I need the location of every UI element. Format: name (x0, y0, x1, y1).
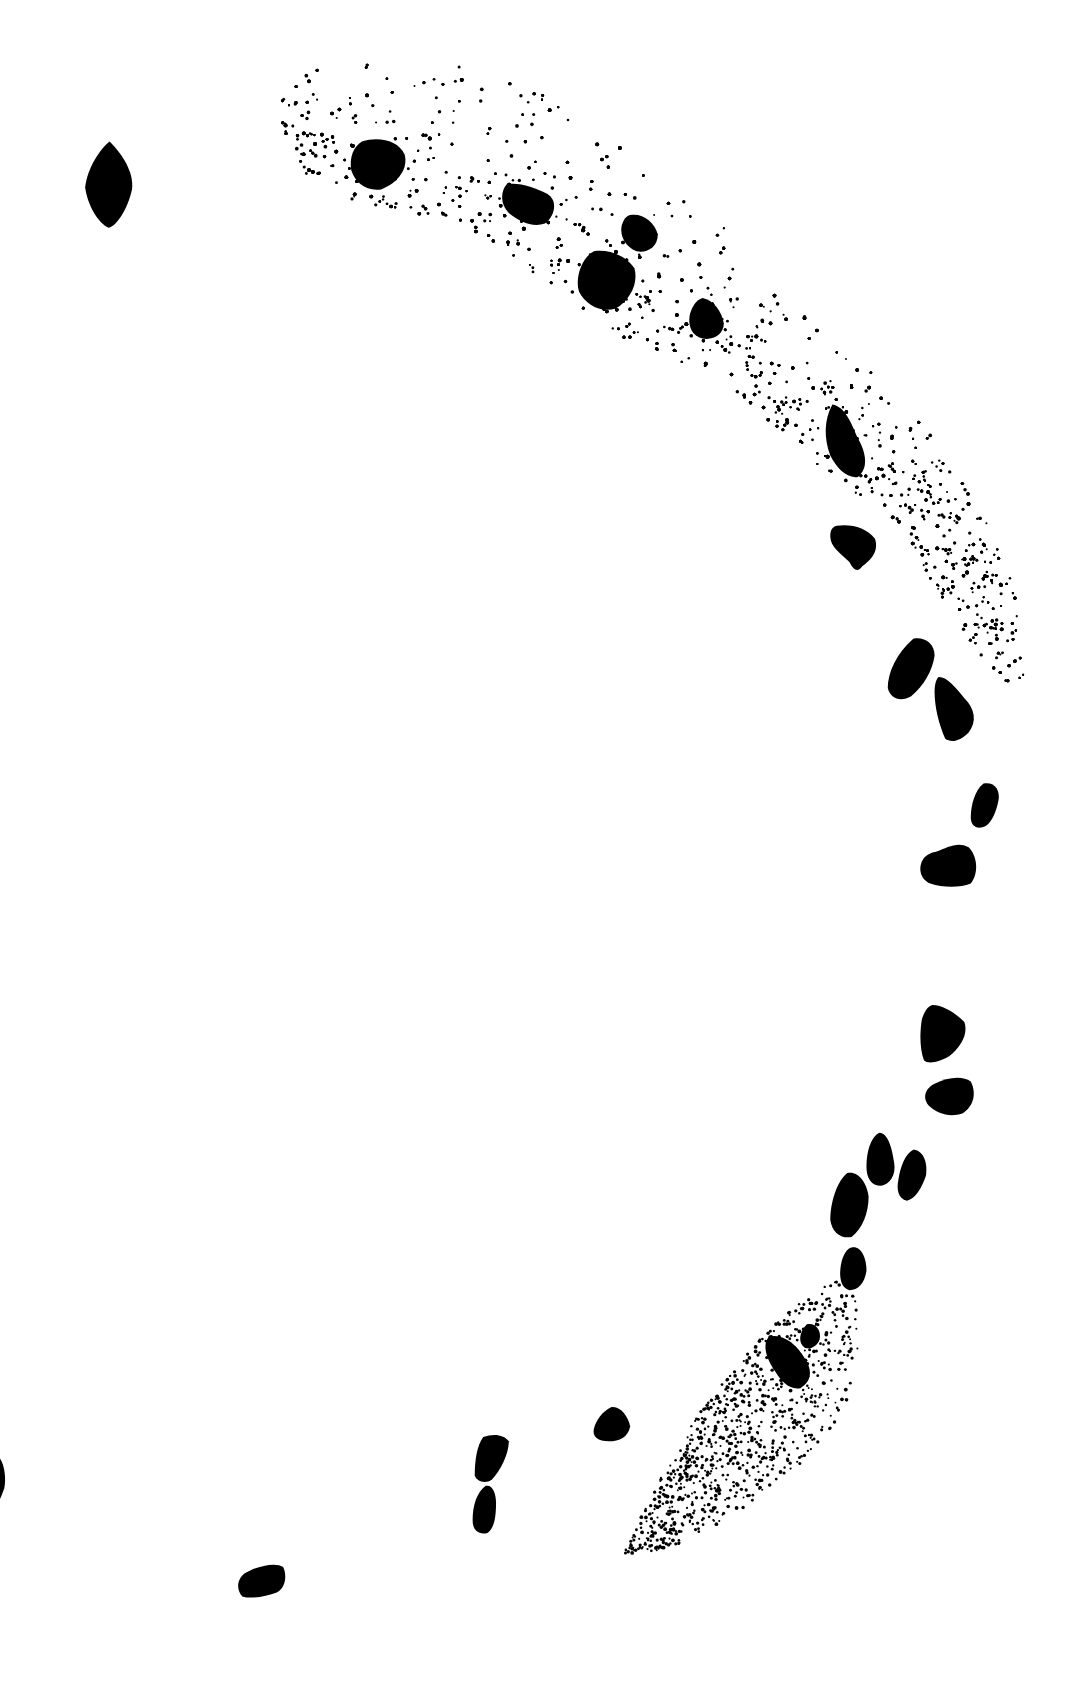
paper-background (0, 0, 1090, 1683)
stone-arc-plan-drawing (0, 0, 1090, 1683)
